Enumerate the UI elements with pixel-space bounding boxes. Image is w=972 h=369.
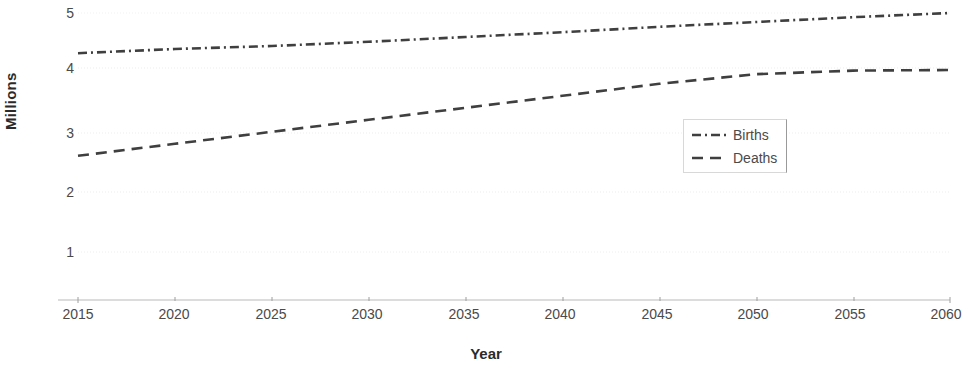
legend-item-births: Births <box>692 123 769 147</box>
series-line-deaths <box>78 70 950 156</box>
legend-label-births: Births <box>733 127 769 143</box>
plot-area <box>0 0 972 369</box>
series-line-births <box>78 13 950 53</box>
x-axis-line <box>58 297 950 303</box>
gridlines <box>78 13 950 252</box>
population-line-chart: Millions Year 5 4 3 2 1 2015 2020 2025 2… <box>0 0 972 369</box>
legend-swatch-deaths-icon <box>692 153 726 163</box>
legend-item-deaths: Deaths <box>692 146 777 170</box>
chart-legend: Births Deaths <box>683 119 787 173</box>
legend-label-deaths: Deaths <box>733 150 777 166</box>
legend-swatch-births-icon <box>692 130 726 140</box>
